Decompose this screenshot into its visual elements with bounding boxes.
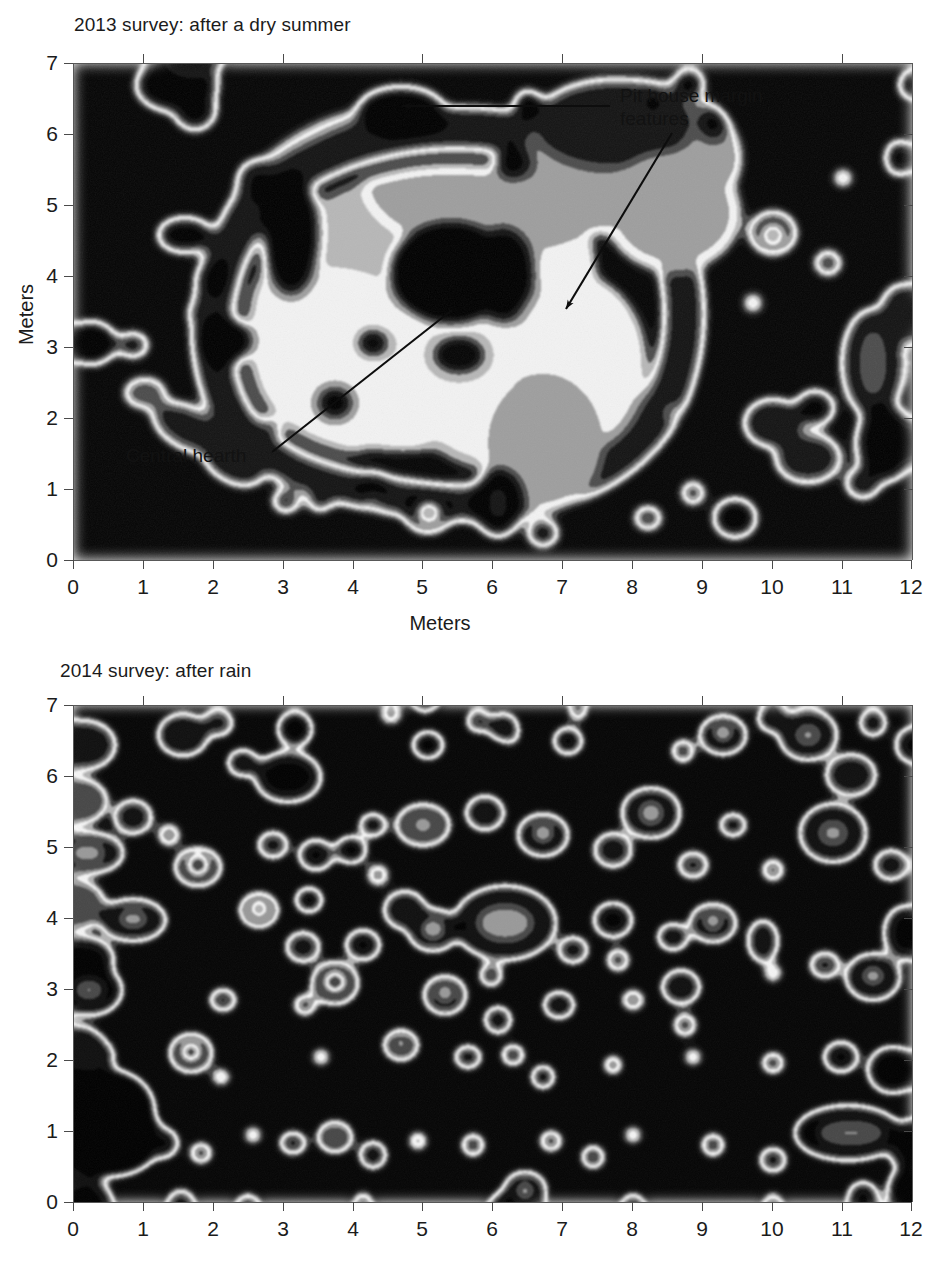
magnetometry-map-2013: [73, 63, 912, 560]
y-ticklabel: 1: [40, 477, 58, 501]
y-ticklabel: 6: [40, 764, 58, 788]
x-ticklabel: 11: [831, 1217, 853, 1241]
x-ticklabel: 10: [760, 1217, 783, 1241]
y-ticklabel: 2: [40, 406, 58, 430]
panel-2013: 2013 survey: after a dry summer: [0, 0, 928, 650]
annotation-central-hearth: Central hearth: [126, 445, 246, 467]
y-ticklabel: 7: [40, 693, 58, 717]
magnetometry-figure: 2013 survey: after a dry summer: [0, 0, 928, 1273]
x-ticklabel: 3: [277, 575, 289, 599]
x-ticklabel: 11: [831, 575, 853, 599]
y-ticklabel: 4: [40, 906, 58, 930]
y-ticklabel: 1: [40, 1119, 58, 1143]
panel-2013-y-axis-title: Meters: [15, 275, 38, 355]
panel-2014-y-axis: [73, 705, 74, 1202]
x-ticklabel: 7: [556, 575, 568, 599]
x-ticklabel: 12: [899, 1217, 922, 1241]
panel-2013-y-axis: [73, 63, 74, 560]
x-ticklabel: 3: [277, 1217, 289, 1241]
panel-2014-right-axis: [912, 705, 913, 1202]
y-ticklabel: 3: [40, 335, 58, 359]
x-ticklabel: 1: [137, 1217, 149, 1241]
annotation-pit-house-margin-line1: Pit house margin: [620, 85, 763, 107]
panel-2014-plot-area: [73, 705, 912, 1202]
x-ticklabel: 1: [137, 575, 149, 599]
panel-2014: 2014 survey: after rain: [0, 650, 928, 1273]
annotation-pit-house-margin-line2: features: [620, 108, 689, 130]
x-ticklabel: 2: [207, 575, 219, 599]
x-ticklabel: 8: [626, 1217, 638, 1241]
y-ticklabel: 5: [40, 193, 58, 217]
x-ticklabel: 7: [556, 1217, 568, 1241]
x-ticklabel: 6: [486, 575, 498, 599]
panel-2014-top-axis: [73, 705, 912, 706]
panel-2013-title: 2013 survey: after a dry summer: [74, 14, 351, 36]
magnetometry-map-2014: [73, 705, 912, 1202]
panel-2013-x-axis-title: Meters: [409, 612, 470, 635]
x-ticklabel: 8: [626, 575, 638, 599]
x-ticklabel: 0: [67, 575, 79, 599]
y-ticklabel: 7: [40, 51, 58, 75]
x-ticklabel: 9: [696, 575, 708, 599]
y-ticklabel: 0: [40, 548, 58, 572]
y-ticklabel: 6: [40, 122, 58, 146]
panel-2013-top-axis: [73, 63, 912, 64]
y-ticklabel: 2: [40, 1048, 58, 1072]
panel-2013-right-axis: [912, 63, 913, 560]
y-ticklabel: 5: [40, 835, 58, 859]
y-ticklabel: 0: [40, 1190, 58, 1214]
x-ticklabel: 10: [760, 575, 783, 599]
panel-2013-plot-area: [73, 63, 912, 560]
x-ticklabel: 0: [67, 1217, 79, 1241]
x-ticklabel: 12: [899, 575, 922, 599]
x-ticklabel: 6: [486, 1217, 498, 1241]
x-ticklabel: 2: [207, 1217, 219, 1241]
x-ticklabel: 5: [416, 1217, 428, 1241]
y-ticklabel: 3: [40, 977, 58, 1001]
panel-2014-title: 2014 survey: after rain: [60, 660, 251, 682]
y-ticklabel: 4: [40, 264, 58, 288]
x-ticklabel: 4: [347, 575, 359, 599]
x-ticklabel: 5: [416, 575, 428, 599]
x-ticklabel: 9: [696, 1217, 708, 1241]
x-ticklabel: 4: [347, 1217, 359, 1241]
